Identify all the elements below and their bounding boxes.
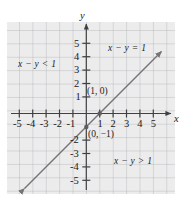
point-label-y-intercept: (0, −1) [88, 130, 114, 140]
x-tick-label--3: -3 [40, 119, 49, 130]
point-label-x-intercept: (1, 0) [87, 87, 108, 97]
axes-and-line-svg [0, 0, 188, 206]
y-tick-label-5: 5 [74, 39, 79, 50]
x-tick-label-5: 5 [151, 119, 156, 130]
y-axis [82, 24, 90, 190]
y-tick-label-3: 3 [74, 65, 79, 76]
graph-figure: y x -5 -4 -3 -2 -1 1 2 3 4 5 5 4 3 2 1 -… [0, 0, 188, 206]
x-tick-label--2: -2 [53, 119, 62, 130]
x-tick-label-2: 2 [111, 119, 116, 130]
x-tick-label-3: 3 [124, 119, 129, 130]
x-tick-label--4: -4 [26, 119, 35, 130]
y-tick-label-2: 2 [74, 79, 79, 90]
y-tick-label--2: -2 [70, 135, 79, 146]
x-tick-label--5: -5 [13, 119, 22, 130]
y-axis-label: y [80, 11, 85, 22]
y-tick-label-4: 4 [74, 52, 79, 63]
x-tick-label-1: 1 [97, 119, 102, 130]
region-label-less-than: x − y < 1 [18, 60, 56, 70]
y-tick-label--4: -4 [70, 162, 79, 173]
x-tick-label--1: -1 [67, 119, 76, 130]
y-tick-label--3: -3 [70, 149, 79, 160]
y-tick-label--5: -5 [70, 176, 79, 187]
x-axis [11, 110, 171, 118]
y-tick-label-1: 1 [76, 92, 81, 103]
line-equation-label: x − y = 1 [108, 44, 146, 54]
region-label-greater-than: x − y > 1 [114, 157, 152, 167]
x-tick-label-4: 4 [137, 119, 142, 130]
x-axis-label: x [174, 114, 179, 125]
